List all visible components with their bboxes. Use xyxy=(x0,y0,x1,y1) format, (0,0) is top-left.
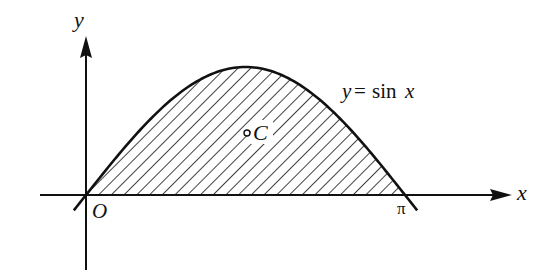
equation-equals: = xyxy=(354,79,366,103)
equation-variable: x xyxy=(404,79,415,103)
y-axis-arrow-icon xyxy=(80,36,92,58)
x-axis-label: x xyxy=(516,180,527,205)
equation-lhs: y xyxy=(340,79,352,103)
equation-function: sin xyxy=(372,79,397,103)
curve-equation-label: y = sin x xyxy=(340,79,415,103)
origin-label: O xyxy=(92,199,107,223)
pi-label: π xyxy=(397,199,406,218)
y-axis-label: y xyxy=(72,7,84,32)
x-axis-arrow-icon xyxy=(490,189,512,201)
sine-area-diagram: y x O π C y = sin x xyxy=(0,0,551,273)
centroid-marker-icon xyxy=(244,130,250,136)
centroid-label: C xyxy=(253,120,268,145)
